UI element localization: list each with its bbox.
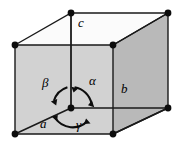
unit-cell-figure: .edge{stroke:#1a1a1a;stroke-width:1.4;fi… (0, 0, 184, 150)
vertex-origin (68, 105, 75, 112)
vertex-bottom-back-left (12, 131, 19, 138)
vertex-bottom-front-right (165, 105, 172, 112)
angle-label-alpha: α (89, 74, 96, 87)
vertex-top-front-right (165, 10, 172, 17)
axis-label-b: b (121, 82, 128, 95)
axis-label-c: c (78, 16, 84, 29)
angle-label-beta: β (42, 76, 48, 89)
vertex-bottom-back-right (110, 131, 117, 138)
vertex-top-back-left (12, 42, 19, 49)
axis-label-a: a (40, 117, 47, 130)
vertex-top-back-center (110, 42, 117, 49)
vertex-top-front-center (68, 10, 75, 17)
angle-label-gamma: γ (76, 118, 81, 131)
